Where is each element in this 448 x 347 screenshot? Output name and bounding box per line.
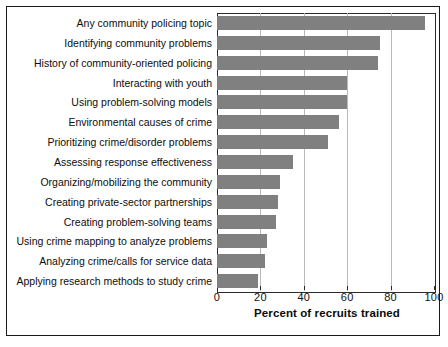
tick-mark — [434, 286, 435, 290]
category-label: Creating problem-solving teams — [9, 215, 215, 229]
bar — [217, 274, 258, 288]
category-label: Using crime mapping to analyze problems — [9, 234, 215, 248]
bar — [217, 95, 347, 109]
tick-label: 100 — [425, 291, 444, 303]
bar-row — [217, 16, 434, 30]
category-label: Using problem-solving models — [9, 95, 215, 109]
bar-row — [217, 95, 434, 109]
category-label: Identifying community problems — [9, 36, 215, 50]
category-label: Assessing response effectiveness — [9, 155, 215, 169]
category-label: Analyzing crime/calls for service data — [9, 254, 215, 268]
tick-label: 40 — [297, 291, 310, 303]
bar-row — [217, 175, 434, 189]
category-label: Organizing/mobilizing the community — [9, 175, 215, 189]
bar — [217, 56, 378, 70]
bar-row — [217, 195, 434, 209]
bar-row — [217, 115, 434, 129]
category-label: Interacting with youth — [9, 76, 215, 90]
chart-figure: 020406080100 Any community policing topi… — [6, 6, 440, 336]
tick-label: 0 — [214, 291, 220, 303]
bar-row — [217, 76, 434, 90]
tick-label: 60 — [341, 291, 354, 303]
tick-label: 80 — [384, 291, 397, 303]
category-label: Applying research methods to study crime — [9, 274, 215, 288]
bar — [217, 135, 328, 149]
bar — [217, 115, 339, 129]
category-label: History of community-oriented policing — [9, 56, 215, 70]
tick-label: 20 — [254, 291, 267, 303]
bar — [217, 234, 267, 248]
bar-row — [217, 36, 434, 50]
bar-row — [217, 135, 434, 149]
bar — [217, 36, 380, 50]
category-label: Prioritizing crime/disorder problems — [9, 135, 215, 149]
category-label: Any community policing topic — [9, 16, 215, 30]
bar-row — [217, 234, 434, 248]
bar-row — [217, 155, 434, 169]
bar — [217, 16, 425, 30]
category-label: Environmental causes of crime — [9, 115, 215, 129]
bar — [217, 175, 280, 189]
bar — [217, 155, 293, 169]
bar-row — [217, 254, 434, 268]
bar — [217, 76, 347, 90]
bar — [217, 254, 265, 268]
bar — [217, 215, 276, 229]
chart-body: 020406080100 Any community policing topi… — [7, 7, 439, 335]
x-axis-title: Percent of recruits trained — [217, 307, 437, 319]
bar-row — [217, 215, 434, 229]
bar — [217, 195, 278, 209]
bar-row — [217, 56, 434, 70]
category-label: Creating private-sector partnerships — [9, 195, 215, 209]
bar-row — [217, 274, 434, 288]
